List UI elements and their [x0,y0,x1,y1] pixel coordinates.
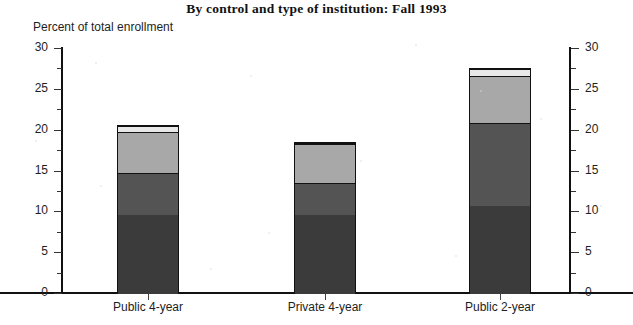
y-tick-label-right-15: 15 [585,163,625,177]
scan-speck [600,205,602,207]
bar-segment-3-public-4-year [118,132,178,173]
y-tick-label-right-30: 30 [585,40,625,54]
y-tick-label-right-5: 5 [585,244,625,258]
y-minor-tick-right-22.5 [571,109,576,110]
bar-segment-4-public-4-year [118,126,178,133]
y-tick-label-left-20: 20 [8,122,48,136]
bar-segment-2-private-4-year [295,183,355,215]
y-minor-tick-left-27.5 [57,68,62,69]
scan-speck [100,185,102,187]
y-minor-tick-left-12.5 [57,191,62,192]
scan-speck [360,160,362,162]
y-minor-tick-left-2.5 [57,273,62,274]
bar-segment-1-public-4-year [118,215,178,294]
bar-segment-1-private-4-year [295,215,355,294]
chart-title: By control and type of institution: Fall… [0,1,633,17]
y-tick-label-right-20: 20 [585,122,625,136]
bar-private-4-year [294,142,356,293]
y-tick-label-left-25: 25 [8,81,48,95]
bar-public-4-year [117,125,179,293]
y-tick-label-left-15: 15 [8,163,48,177]
y-tick-right-30 [571,48,579,49]
y-tick-right-25 [571,89,579,90]
y-tick-right-0 [571,293,579,294]
y-minor-tick-left-7.5 [57,232,62,233]
y-tick-left-0 [54,293,62,294]
y-axis-caption: Percent of total enrollment [33,20,173,34]
y-minor-tick-left-17.5 [57,150,62,151]
scan-speck [35,140,37,142]
y-tick-label-right-25: 25 [585,81,625,95]
bar-segment-2-public-2-year [470,123,530,205]
y-minor-tick-right-2.5 [571,273,576,274]
y-tick-left-15 [54,171,62,172]
y-minor-tick-right-17.5 [571,150,576,151]
y-tick-right-10 [571,211,579,212]
scan-speck [415,44,417,46]
y-tick-left-10 [54,211,62,212]
y-tick-label-left-10: 10 [8,203,48,217]
bar-segment-2-public-4-year [118,173,178,215]
bar-segment-1-public-2-year [470,206,530,294]
bar-segment-4-public-2-year [470,69,530,76]
x-axis-label-public-4-year: Public 4-year [88,300,208,314]
bar-segment-3-public-2-year [470,76,530,123]
y-tick-label-right-10: 10 [585,203,625,217]
y-tick-right-5 [571,252,579,253]
y-tick-label-left-5: 5 [8,244,48,258]
scan-speck [268,232,270,234]
scan-speck [210,268,212,270]
y-tick-label-left-30: 30 [8,40,48,54]
bar-public-2-year [469,68,531,293]
scan-speck [480,90,482,92]
y-tick-left-5 [54,252,62,253]
x-axis-label-private-4-year: Private 4-year [265,300,385,314]
y-minor-tick-right-7.5 [571,232,576,233]
bar-segment-3-private-4-year [295,144,355,183]
x-axis-label-public-2-year: Public 2-year [440,300,560,314]
y-tick-left-20 [54,130,62,131]
bar-segment-4-private-4-year [295,143,355,144]
scan-speck [95,62,97,64]
y-tick-label-left-0: 0 [8,285,48,299]
y-tick-right-15 [571,171,579,172]
y-minor-tick-left-22.5 [57,109,62,110]
scan-speck [455,255,457,257]
y-tick-right-20 [571,130,579,131]
y-minor-tick-right-12.5 [571,191,576,192]
chart-figure: By control and type of institution: Fall… [0,0,633,325]
scan-speck [540,118,542,120]
scan-speck [250,75,252,77]
y-tick-left-25 [54,89,62,90]
y-tick-label-right-0: 0 [585,285,625,299]
y-tick-left-30 [54,48,62,49]
y-minor-tick-right-27.5 [571,68,576,69]
